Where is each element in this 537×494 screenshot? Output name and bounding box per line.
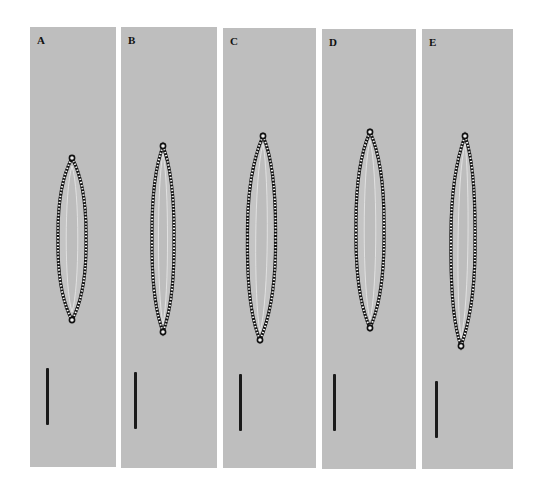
diatom-valve-e xyxy=(451,133,475,348)
diatom-valve-a xyxy=(58,155,86,322)
diatom-valve-b xyxy=(152,143,174,334)
cells-layer xyxy=(0,0,537,494)
diatom-valve-d xyxy=(356,129,384,330)
diatom-valve-c xyxy=(247,133,275,342)
